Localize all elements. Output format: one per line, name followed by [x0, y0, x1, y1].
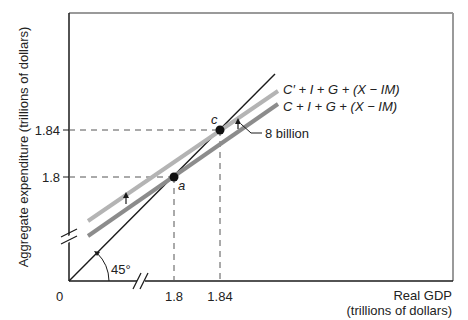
origin-label: 0	[56, 289, 63, 304]
x-tick-1-84: 1.84	[207, 289, 232, 304]
x-axis-label: Real GDP	[393, 288, 452, 303]
shift-label: 8 billion	[265, 126, 309, 141]
upper-line-label: C′ + I + G + (X − IM)	[283, 82, 400, 97]
lower-line-label: C + I + G + (X − IM)	[283, 99, 397, 114]
lower-ae-line	[88, 104, 278, 236]
chart: a c C′ + I + G + (X − IM) C + I + G + (X…	[0, 0, 468, 320]
x-tick-1-8: 1.8	[165, 289, 183, 304]
y-tick-1-84: 1.84	[35, 123, 60, 138]
angle-label: 45°	[111, 262, 131, 277]
angle-arc	[97, 253, 109, 281]
y-tick-1-8: 1.8	[42, 170, 60, 185]
point-c-label: c	[211, 112, 218, 127]
x-axis-unit: (trillions of dollars)	[347, 303, 452, 318]
upper-ae-line	[88, 91, 278, 221]
y-axis-label: Aggregate expenditure (trillions of doll…	[16, 27, 31, 268]
point-a-label: a	[178, 178, 185, 193]
